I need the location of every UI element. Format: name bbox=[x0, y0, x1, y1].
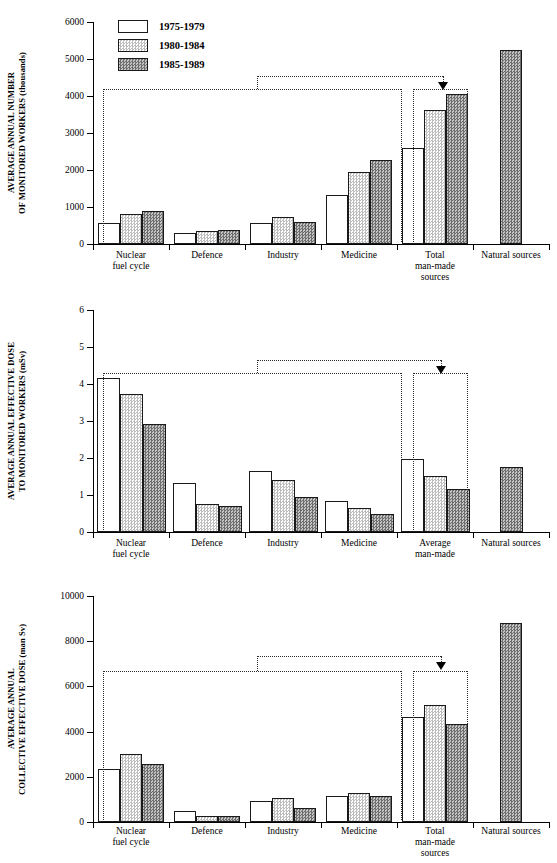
annotation-dotted-vertical bbox=[257, 76, 258, 88]
annotation-dotted-vertical bbox=[401, 373, 402, 530]
y-tick-mark bbox=[87, 207, 94, 208]
y-tick-mark bbox=[87, 96, 94, 97]
annotation-dotted-vertical bbox=[413, 89, 414, 242]
bar bbox=[272, 798, 294, 822]
bar bbox=[500, 50, 522, 244]
bar bbox=[196, 504, 219, 532]
category-label: Medicine bbox=[321, 538, 397, 549]
category-label: Industry bbox=[245, 826, 321, 837]
annotation-arrow-down-icon bbox=[436, 662, 446, 670]
legend-label: 1975-1979 bbox=[159, 21, 205, 32]
y-tick-mark bbox=[87, 596, 94, 597]
annotation-arrow-down-icon bbox=[436, 366, 446, 374]
bar bbox=[401, 459, 424, 532]
y-tick-mark bbox=[87, 22, 94, 23]
bar bbox=[446, 94, 468, 244]
y-tick-mark bbox=[87, 641, 94, 642]
annotation-dotted-vertical bbox=[103, 89, 104, 242]
category-tick bbox=[549, 532, 550, 538]
y-axis-label: AVERAGE ANNUAL EFFECTIVE DOSE TO MONITOR… bbox=[6, 310, 46, 532]
y-axis-line bbox=[93, 596, 94, 822]
legend-swatch-s2 bbox=[118, 58, 148, 71]
bar bbox=[326, 796, 348, 822]
bar bbox=[424, 476, 447, 532]
annotation-dotted-vertical bbox=[103, 671, 104, 820]
bar bbox=[424, 110, 446, 244]
bar bbox=[370, 160, 392, 244]
legend-swatch-s0 bbox=[118, 20, 148, 33]
legend-item: 1980-1984 bbox=[118, 37, 205, 53]
chart-panel-workers: AVERAGE ANNUAL NUMBER OF MONITORED WORKE… bbox=[0, 0, 557, 292]
annotation-dotted-vertical bbox=[401, 671, 402, 820]
bar bbox=[348, 793, 370, 822]
y-tick-label: 3000 bbox=[65, 128, 84, 138]
bar bbox=[250, 801, 272, 822]
bar bbox=[370, 796, 392, 822]
category-label: Industry bbox=[245, 250, 321, 261]
category-label: Nuclear fuel cycle bbox=[93, 250, 169, 272]
bar bbox=[218, 816, 240, 822]
y-axis-label: AVERAGE ANNUAL NUMBER OF MONITORED WORKE… bbox=[6, 22, 46, 244]
y-tick-mark bbox=[87, 732, 94, 733]
bar bbox=[142, 764, 164, 822]
y-tick-label: 6000 bbox=[65, 681, 84, 691]
category-label: Defence bbox=[169, 826, 245, 837]
category-label: Medicine bbox=[321, 826, 397, 837]
bar bbox=[424, 705, 446, 822]
annotation-dotted-horizontal bbox=[103, 373, 401, 374]
legend-swatch-s1 bbox=[118, 39, 148, 52]
bar bbox=[98, 223, 120, 244]
chart-panel-collective-dose: AVERAGE ANNUAL COLLECTIVE EFFECTIVE DOSE… bbox=[0, 582, 557, 863]
y-tick-label: 1 bbox=[79, 490, 84, 500]
bar bbox=[120, 754, 142, 822]
category-label: Total man-made sources bbox=[397, 250, 473, 283]
y-axis-label: AVERAGE ANNUAL COLLECTIVE EFFECTIVE DOSE… bbox=[6, 596, 46, 822]
bar bbox=[500, 623, 522, 822]
annotation-dotted-vertical bbox=[413, 373, 414, 530]
category-label: Industry bbox=[245, 538, 321, 549]
annotation-dotted-vertical bbox=[103, 373, 104, 530]
annotation-dotted-vertical bbox=[467, 373, 468, 530]
bar bbox=[294, 808, 316, 822]
bar bbox=[143, 424, 166, 532]
y-tick-label: 0 bbox=[79, 527, 84, 537]
bar bbox=[446, 724, 468, 822]
bar bbox=[272, 480, 295, 532]
y-tick-label: 1000 bbox=[65, 202, 84, 212]
y-tick-label: 4 bbox=[79, 379, 84, 389]
y-tick-label: 4000 bbox=[65, 91, 84, 101]
bar bbox=[249, 471, 272, 532]
bar bbox=[98, 769, 120, 822]
annotation-arrow-down-icon bbox=[438, 82, 448, 90]
annotation-dotted-horizontal bbox=[257, 76, 443, 77]
y-tick-label: 3 bbox=[79, 416, 84, 426]
bar bbox=[120, 394, 143, 532]
annotation-dotted-horizontal bbox=[103, 89, 401, 90]
y-tick-label: 0 bbox=[79, 817, 84, 827]
category-label: Total man-made sources bbox=[397, 826, 473, 859]
category-label: Defence bbox=[169, 538, 245, 549]
chart-panel-effective-dose: AVERAGE ANNUAL EFFECTIVE DOSE TO MONITOR… bbox=[0, 292, 557, 582]
y-tick-mark bbox=[87, 133, 94, 134]
y-tick-label: 5000 bbox=[65, 54, 84, 64]
annotation-dotted-vertical bbox=[413, 671, 414, 820]
y-tick-label: 2 bbox=[79, 453, 84, 463]
y-tick-label: 5 bbox=[79, 342, 84, 352]
y-tick-mark bbox=[87, 495, 94, 496]
bar bbox=[326, 195, 348, 244]
bar bbox=[325, 501, 348, 532]
bar bbox=[272, 217, 294, 244]
category-label: Natural sources bbox=[473, 250, 549, 261]
annotation-dotted-vertical bbox=[401, 89, 402, 242]
y-tick-label: 6000 bbox=[65, 17, 84, 27]
bar bbox=[250, 223, 272, 244]
annotation-dotted-horizontal bbox=[257, 360, 441, 361]
bar bbox=[196, 231, 218, 244]
bar bbox=[348, 172, 370, 244]
bar bbox=[500, 467, 523, 532]
category-tick bbox=[549, 244, 550, 250]
bar bbox=[174, 811, 196, 822]
legend-item: 1985-1989 bbox=[118, 56, 205, 72]
y-tick-label: 8000 bbox=[65, 636, 84, 646]
bar bbox=[294, 222, 316, 244]
